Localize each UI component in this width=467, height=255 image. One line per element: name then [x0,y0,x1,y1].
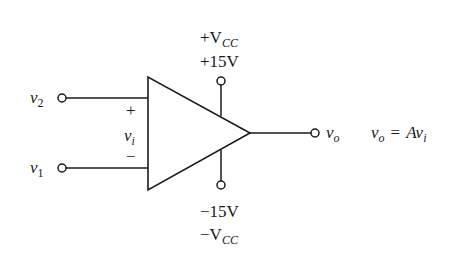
input-v2-terminal [58,94,66,102]
negative-supply-terminal [217,181,225,189]
positive-supply-terminal [217,77,225,85]
op-amp-triangle [148,77,250,190]
gain-equation: vo=Avi [371,123,426,145]
output-terminal [311,129,319,137]
plus-sign: + [126,101,136,120]
positive-supply-name: +VCC [200,28,239,50]
input-v1-label: v1 [30,158,44,180]
minus-sign: − [126,147,136,166]
op-amp-schematic: v2 v1 + − vi vo vo=Avi +VCC +15V −15V −V… [0,0,467,255]
op-amp-diagram: v2 v1 + − vi vo vo=Avi +VCC +15V −15V −V… [0,0,467,255]
differential-input-label: vi [124,126,135,148]
output-label: vo [326,123,340,145]
negative-supply-name: −VCC [200,225,239,247]
input-v1-terminal [58,164,66,172]
input-v2-label: v2 [30,88,44,110]
negative-supply-value: −15V [200,202,240,221]
positive-supply-value: +15V [200,52,240,71]
